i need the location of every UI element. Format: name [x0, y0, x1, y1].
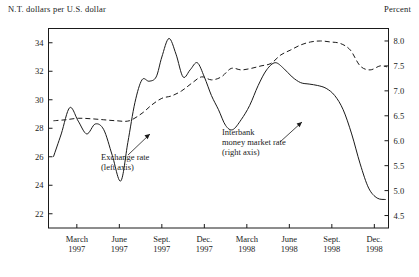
x-tick-label-month: Sept.: [323, 234, 340, 244]
x-tick-label-month: Sept.: [153, 234, 170, 244]
right-tick-label: 6.5: [394, 111, 405, 121]
x-tick-label-month: Dec.: [366, 234, 382, 244]
plot-frame: [49, 29, 389, 229]
right-tick-label: 5.5: [394, 161, 405, 171]
x-tick-label-year: 1998: [366, 244, 383, 254]
right-axis-ticks: 4.55.05.56.06.57.07.58.0: [385, 36, 405, 221]
left-tick-label: 32: [35, 66, 44, 76]
interbank-label-line3: (right axis): [222, 147, 260, 157]
right-tick-label: 8.0: [394, 36, 405, 46]
x-tick-label-year: 1997: [153, 244, 170, 254]
x-tick-label-year: 1998: [281, 244, 298, 254]
interbank-rate-line: [53, 41, 387, 121]
left-tick-label: 28: [35, 123, 44, 133]
figure-container: N.T. dollars per U.S. dollar Percent 222…: [0, 0, 419, 277]
left-axis-ticks: 22242628303234: [35, 38, 53, 219]
x-tick-label-month: March: [66, 234, 89, 244]
left-tick-label: 22: [35, 209, 44, 219]
exchange-rate-label-line2: (left axis): [101, 162, 134, 172]
right-tick-label: 6.0: [394, 136, 405, 146]
x-tick-label-month: Dec.: [196, 234, 212, 244]
exchange-rate-line: [53, 38, 385, 199]
line-chart: 22242628303234 4.55.05.56.06.57.07.58.0 …: [0, 0, 419, 277]
x-tick-label-month: June: [112, 234, 128, 244]
exchange-rate-label-line1: Exchange rate: [101, 152, 150, 162]
left-tick-label: 30: [35, 95, 44, 105]
interbank-rate-annotation: Interbank money market rate (right axis): [222, 122, 302, 157]
left-tick-label: 34: [35, 38, 44, 48]
x-tick-label-year: 1997: [68, 244, 85, 254]
x-tick-label-month: June: [282, 234, 298, 244]
right-tick-label: 7.0: [394, 86, 405, 96]
right-tick-label: 5.0: [394, 186, 405, 196]
interbank-label-line1: Interbank: [222, 127, 255, 137]
left-tick-label: 26: [35, 152, 44, 162]
x-tick-label-year: 1998: [238, 244, 255, 254]
interbank-label-line2: money market rate: [222, 137, 286, 147]
x-tick-label-year: 1997: [196, 244, 213, 254]
left-tick-label: 24: [35, 180, 44, 190]
exchange-rate-annotation: Exchange rate (left axis): [101, 134, 150, 172]
x-tick-label-year: 1998: [323, 244, 340, 254]
x-tick-label-month: March: [236, 234, 259, 244]
right-tick-label: 7.5: [394, 61, 405, 71]
x-tick-label-year: 1997: [111, 244, 128, 254]
right-tick-label: 4.5: [394, 211, 405, 221]
